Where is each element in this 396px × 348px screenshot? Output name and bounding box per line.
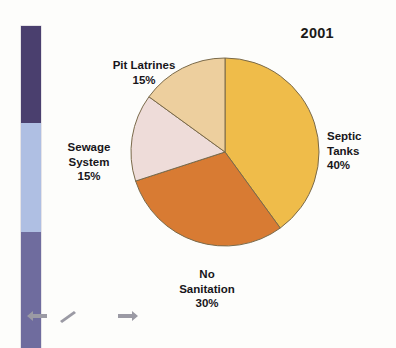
chart-title: 2001 <box>301 25 334 41</box>
slice-label-no-sanitation-percent: 30% <box>152 296 262 310</box>
rectangle-icon <box>87 307 113 325</box>
vertical-color-band <box>21 26 41 348</box>
slice-label-sewage-system-percent: 15% <box>46 169 132 183</box>
pencil-icon <box>56 307 82 325</box>
arrow-right-icon <box>114 307 140 325</box>
slice-label-no-sanitation: No Sanitation 30% <box>152 253 262 325</box>
slice-label-pit-latrines: Pit Latrines 15% <box>90 44 198 102</box>
slice-label-sewage-system-name: Sewage System <box>68 141 111 167</box>
slice-label-sewage-system: Sewage System 15% <box>46 126 132 198</box>
color-band-segment-light-blue <box>21 123 41 232</box>
slice-label-septic-tanks-percent: 40% <box>327 158 393 172</box>
color-band-segment-slate-purple <box>21 232 41 348</box>
color-band-segment-dark-purple <box>21 26 41 123</box>
slice-label-septic-tanks-name: Septic Tanks <box>327 130 362 156</box>
icon-strip <box>25 307 140 327</box>
arrow-left-icon <box>25 307 51 325</box>
slice-label-pit-latrines-name: Pit Latrines <box>113 59 176 71</box>
slice-label-pit-latrines-percent: 15% <box>90 73 198 87</box>
slice-label-septic-tanks: Septic Tanks 40% <box>327 115 393 187</box>
chart-page: 2001 Pit Latrines 15% Sewage System 15% … <box>0 0 396 348</box>
slice-label-no-sanitation-name: No Sanitation <box>179 268 235 294</box>
